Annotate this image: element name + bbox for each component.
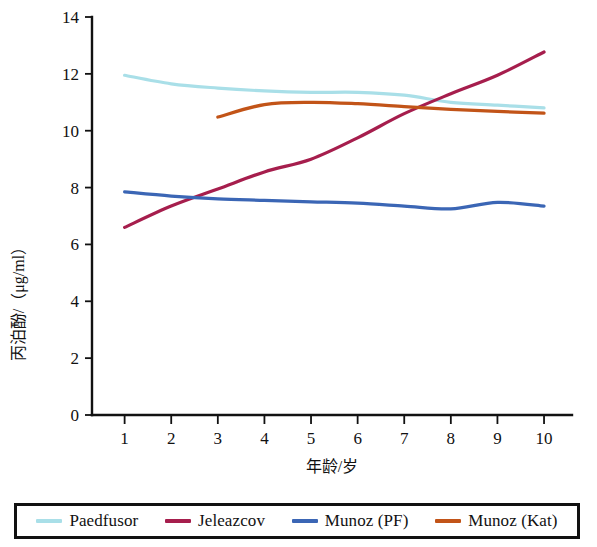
x-tick-label: 6 [353,429,362,448]
y-tick-label: 4 [71,292,80,311]
y-tick-label: 14 [62,8,80,27]
y-tick-label: 0 [71,406,80,425]
legend-item[interactable]: Munoz (Kat) [435,511,557,531]
data-series-group [125,52,544,227]
y-tick-label: 2 [71,349,80,368]
y-tick-label: 8 [71,179,80,198]
x-axis-title: 年龄/岁 [306,458,358,475]
x-tick-label: 7 [400,429,409,448]
x-tick-label: 9 [493,429,502,448]
x-tick-label: 8 [447,429,456,448]
line-chart: 丙泊酚/（μg/ml） 年龄/岁 02468101214 12345678910 [0,0,597,495]
x-tick-label: 10 [536,429,553,448]
legend-item[interactable]: Munoz (PF) [292,511,409,531]
legend-color-swatch [292,519,318,523]
chart-legend: PaedfusorJeleazcovMunoz (PF)Munoz (Kat) [14,503,580,539]
legend-item-label: Jeleazcov [198,511,265,531]
legend-color-swatch [36,519,62,523]
x-tick-label: 1 [120,429,129,448]
x-tick-label: 2 [167,429,176,448]
x-tick-label: 4 [260,429,269,448]
y-tick-label: 12 [62,65,79,84]
y-axis-title: 丙泊酚/（μg/ml） [10,239,28,361]
legend-color-swatch [165,519,191,523]
legend-item-label: Munoz (PF) [325,511,409,531]
chart-plot-area: 丙泊酚/（μg/ml） 年龄/岁 02468101214 12345678910 [0,0,597,495]
figure-container: 丙泊酚/（μg/ml） 年龄/岁 02468101214 12345678910… [0,0,597,547]
legend-item-label: Paedfusor [69,511,138,531]
legend-color-swatch [435,519,461,523]
y-tick-label: 10 [62,122,79,141]
x-axis-ticks: 12345678910 [120,415,552,448]
x-tick-label: 5 [307,429,316,448]
y-axis-ticks: 02468101214 [62,8,92,425]
legend-item[interactable]: Jeleazcov [165,511,265,531]
legend-item-label: Munoz (Kat) [468,511,557,531]
legend-item[interactable]: Paedfusor [36,511,138,531]
x-tick-label: 3 [214,429,223,448]
y-tick-label: 6 [71,235,80,254]
